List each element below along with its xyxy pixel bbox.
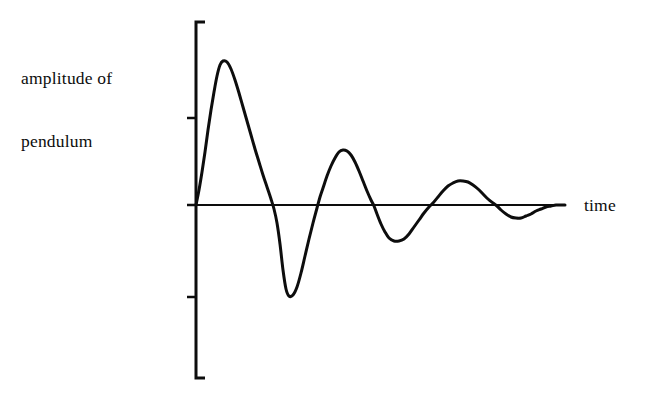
x-axis-label: time: [584, 195, 616, 215]
y-axis-label-line-1: amplitude of: [21, 68, 112, 89]
figure-canvas: amplitude of pendulum time: [0, 0, 649, 403]
y-axis-label: amplitude of pendulum: [21, 26, 112, 194]
y-axis-label-line-2: pendulum: [21, 131, 112, 152]
